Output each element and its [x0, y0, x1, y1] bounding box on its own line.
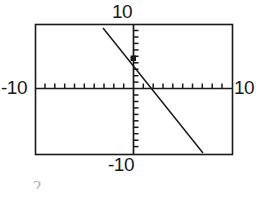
axis-label-top: 10 [112, 2, 132, 21]
axis-label-left: -10 [1, 78, 27, 97]
screenshot-root: 10 -10 10 -10 2 [0, 0, 256, 197]
axis-label-right: 10 [234, 78, 254, 97]
partial-glyph-artifact: 2 [33, 178, 42, 189]
axis-label-bottom: -10 [108, 155, 134, 174]
trace-cursor-marker[interactable] [131, 56, 137, 62]
